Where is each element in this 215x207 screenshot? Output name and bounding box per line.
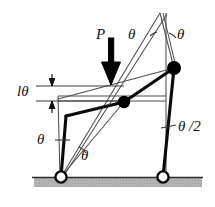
left-pin-support-icon <box>55 171 66 182</box>
top-joint-icon <box>167 61 181 75</box>
load-arrow-head <box>102 62 121 85</box>
reference-line-pin-to-middle <box>61 102 124 177</box>
reference-line-apex-to-top-joint-2 <box>163 13 176 67</box>
dimension-arrow <box>49 74 55 113</box>
theta-label-top-left: θ <box>128 27 135 42</box>
load-arrow-icon <box>102 38 121 85</box>
load-label: P <box>96 27 105 42</box>
theta-label-top-right: θ <box>177 27 184 42</box>
theta-label-bottom-right: θ <box>81 148 88 163</box>
reference-configuration-lines <box>58 13 176 178</box>
middle-joint-icon <box>118 96 130 108</box>
angle-tick-marks <box>55 32 176 153</box>
member-right-column <box>163 68 174 177</box>
reference-line-apex-to-top-joint <box>160 13 174 68</box>
member-left-lower <box>61 116 66 177</box>
member-left-upper <box>66 102 124 116</box>
displacement-label: lθ <box>17 84 29 99</box>
dimension-arrow-head-down <box>49 79 55 87</box>
figure-canvas: P θ θ lθ θ θ θ /2 <box>0 0 215 207</box>
dimension-arrow-head-up <box>49 101 55 109</box>
theta-label-bottom-left: θ <box>37 132 44 147</box>
half-theta-label: θ /2 <box>178 119 201 134</box>
reference-line-left-vertical <box>58 96 60 177</box>
right-pin-support-icon <box>157 171 168 182</box>
angle-arc-top-right <box>169 33 176 38</box>
